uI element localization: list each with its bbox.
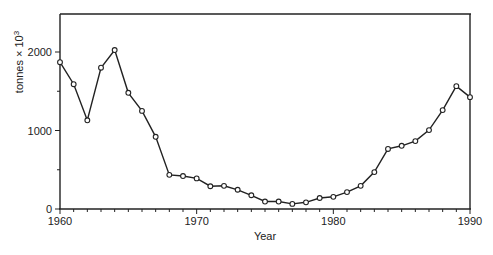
series-line [60, 50, 470, 204]
data-point-marker [263, 199, 268, 204]
x-tick-label: 1990 [458, 215, 482, 227]
axis-ticks [55, 52, 470, 214]
data-point-marker [112, 48, 117, 53]
data-point-marker [399, 143, 404, 148]
x-tick-label: 1970 [184, 215, 208, 227]
y-tick-labels: 010002000 [28, 46, 52, 215]
data-point-marker [454, 84, 459, 89]
data-point-marker [153, 134, 158, 139]
data-point-marker [386, 147, 391, 152]
data-point-marker [222, 183, 227, 188]
x-axis-title: Year [254, 230, 277, 242]
x-tick-labels: 1960197019801990 [48, 215, 482, 227]
data-point-marker [140, 108, 145, 113]
data-point-marker [358, 183, 363, 188]
data-point-marker [58, 60, 63, 65]
data-point-marker [235, 187, 240, 192]
data-point-marker [345, 190, 350, 195]
data-point-marker [317, 196, 322, 201]
data-point-marker [427, 128, 432, 133]
data-point-marker [304, 200, 309, 205]
data-point-marker [290, 201, 295, 206]
x-tick-label: 1960 [48, 215, 72, 227]
data-point-marker [440, 108, 445, 113]
data-point-marker [249, 193, 254, 198]
x-tick-label: 1980 [321, 215, 345, 227]
data-point-marker [99, 65, 104, 70]
y-axis-title-superscript: 3 [12, 30, 21, 35]
data-point-marker [167, 172, 172, 177]
plot-frame [59, 14, 471, 209]
y-tick-label: 2000 [28, 46, 52, 58]
data-point-marker [85, 118, 90, 123]
data-point-marker [126, 90, 131, 95]
data-point-marker [208, 184, 213, 189]
line-chart: 1960197019801990 010002000 Year tonnes ×… [0, 0, 493, 255]
y-tick-label: 0 [46, 203, 52, 215]
data-point-marker [468, 95, 473, 100]
y-axis-title: tonnes × 103 [12, 30, 25, 93]
data-point-marker [276, 199, 281, 204]
data-point-marker [194, 176, 199, 181]
data-point-marker [413, 139, 418, 144]
series-markers [58, 48, 473, 207]
y-tick-label: 1000 [28, 125, 52, 137]
y-axis-title-text: tonnes × 10 [13, 35, 25, 93]
data-point-marker [71, 82, 76, 87]
data-point-marker [181, 174, 186, 179]
data-point-marker [331, 194, 336, 199]
data-point-marker [372, 170, 377, 175]
